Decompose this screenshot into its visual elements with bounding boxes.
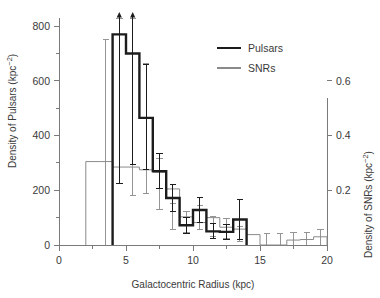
x-axis-title: Galactocentric Radius (kpc) <box>132 279 255 290</box>
y2-axis-title-exponent: −2 <box>361 154 370 163</box>
chart-figure: 0200400600800051015200.20.40.6 PulsarsSN… <box>0 0 380 298</box>
y-axis-title-exponent: −2 <box>5 57 14 66</box>
svg-text:Density of SNRs (kpc−2): Density of SNRs (kpc−2) <box>361 151 374 258</box>
svg-text:Density of Pulsars (kpc−2): Density of Pulsars (kpc−2) <box>5 54 18 168</box>
x-tick-label: 15 <box>254 254 266 266</box>
y2-tick-label: 0.2 <box>336 184 351 196</box>
y2-axis-title-text: Density of SNRs (kpc <box>363 163 374 258</box>
x-tick-label: 5 <box>123 254 129 266</box>
y-tick-label: 400 <box>32 129 50 141</box>
y-tick-label: 600 <box>32 75 50 87</box>
y2-tick-label: 0.4 <box>336 129 351 141</box>
pulsar-snr-radial-density-chart: 0200400600800051015200.20.40.6 PulsarsSN… <box>0 0 380 298</box>
y2-tick-label: 0.6 <box>336 75 351 87</box>
y-axis-title-text: Density of Pulsars (kpc <box>7 66 18 168</box>
y-axis-title-paren: ) <box>7 54 18 57</box>
x-tick-label: 20 <box>321 254 333 266</box>
y-tick-label: 0 <box>44 239 50 251</box>
legend-label: SNRs <box>248 62 275 74</box>
y-axis-title: Density of Pulsars (kpc−2) <box>5 54 18 168</box>
legend-label: Pulsars <box>248 42 283 54</box>
y-tick-label: 200 <box>32 184 50 196</box>
y2-axis-title: Density of SNRs (kpc−2) <box>361 151 374 258</box>
y2-axis-title-paren: ) <box>363 151 374 154</box>
x-tick-label: 10 <box>187 254 199 266</box>
y-tick-label: 800 <box>32 20 50 32</box>
x-tick-label: 0 <box>56 254 62 266</box>
